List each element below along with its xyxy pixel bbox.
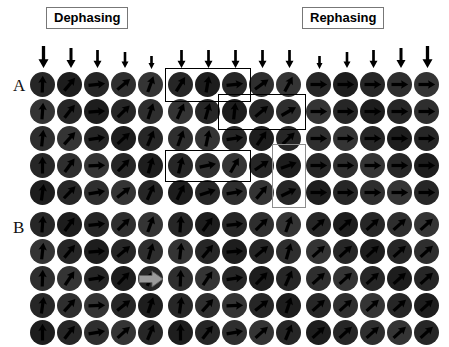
- spin-arrow-icon: [414, 72, 439, 97]
- spin-arrow-icon: [249, 320, 274, 345]
- spin-arrow-icon: [138, 293, 163, 318]
- spin-arrow-icon: [333, 126, 358, 151]
- spin-cell: [387, 99, 412, 124]
- spin-arrow-icon: [249, 212, 274, 237]
- spin-cell: [195, 293, 220, 318]
- stimulus-arrow-a-right-1: [316, 55, 323, 73]
- spin-cell: [30, 180, 55, 205]
- spin-arrow-icon: [111, 212, 136, 237]
- spin-arrow-icon: [111, 153, 136, 178]
- spin-arrow-icon: [306, 99, 331, 124]
- spin-arrow-icon: [333, 212, 358, 237]
- stimulus-arrow-a-right-2: [343, 52, 351, 72]
- spin-arrow-icon: [84, 126, 109, 151]
- spin-cell: [333, 153, 358, 178]
- spin-cell: [138, 212, 163, 237]
- spin-arrow-icon: [195, 99, 220, 124]
- spin-grid-panel-b-right: [306, 212, 441, 347]
- gray-block-arrow: [138, 270, 164, 292]
- spin-cell: [57, 126, 82, 151]
- spin-arrow-icon: [57, 293, 82, 318]
- spin-cell: [414, 99, 439, 124]
- spin-arrow-icon: [414, 320, 439, 345]
- spin-arrow-icon: [249, 153, 274, 178]
- spin-cell: [138, 72, 163, 97]
- spin-cell: [306, 266, 331, 291]
- spin-arrow-icon: [57, 153, 82, 178]
- spin-grid-panel-a-middle: [168, 72, 303, 207]
- spin-cell: [249, 293, 274, 318]
- spin-arrow-icon: [57, 320, 82, 345]
- spin-cell: [111, 72, 136, 97]
- spin-arrow-icon: [168, 239, 193, 264]
- spin-arrow-icon: [138, 153, 163, 178]
- spin-arrow-icon: [249, 293, 274, 318]
- spin-cell: [387, 72, 412, 97]
- spin-arrow-icon: [84, 153, 109, 178]
- spin-arrow-icon: [111, 266, 136, 291]
- spin-cell: [57, 266, 82, 291]
- spin-arrow-icon: [414, 239, 439, 264]
- spin-arrow-icon: [84, 239, 109, 264]
- spin-arrow-icon: [333, 239, 358, 264]
- spin-cell: [387, 180, 412, 205]
- stimulus-arrow-a-middle-4: [258, 50, 267, 72]
- spin-arrow-icon: [30, 266, 55, 291]
- spin-cell: [168, 99, 193, 124]
- spin-arrow-icon: [195, 320, 220, 345]
- spin-arrow-icon: [30, 153, 55, 178]
- spin-arrow-icon: [111, 180, 136, 205]
- spin-arrow-icon: [333, 320, 358, 345]
- spin-cell: [306, 320, 331, 345]
- spin-arrow-icon: [195, 266, 220, 291]
- spin-cell: [168, 293, 193, 318]
- spin-arrow-icon: [333, 293, 358, 318]
- overlay-rect-right-vertical: [272, 144, 306, 208]
- spin-arrow-icon: [57, 99, 82, 124]
- spin-cell: [276, 212, 301, 237]
- header-rephasing: Rephasing: [302, 7, 384, 29]
- spin-cell: [84, 239, 109, 264]
- spin-cell: [111, 99, 136, 124]
- spin-cell: [168, 180, 193, 205]
- spin-arrow-icon: [195, 212, 220, 237]
- spin-cell: [138, 99, 163, 124]
- spin-arrow-icon: [360, 72, 385, 97]
- spin-cell: [168, 126, 193, 151]
- spin-cell: [84, 320, 109, 345]
- spin-cell: [30, 293, 55, 318]
- spin-arrow-icon: [138, 99, 163, 124]
- spin-arrow-icon: [168, 126, 193, 151]
- spin-cell: [414, 72, 439, 97]
- spin-cell: [57, 180, 82, 205]
- spin-cell: [387, 212, 412, 237]
- spin-arrow-icon: [30, 293, 55, 318]
- spin-cell: [306, 126, 331, 151]
- spin-cell: [333, 99, 358, 124]
- spin-arrow-icon: [387, 153, 412, 178]
- spin-cell: [276, 320, 301, 345]
- spin-arrow-icon: [276, 320, 301, 345]
- spin-cell: [276, 266, 301, 291]
- overlay-rect-lower-left: [165, 150, 251, 182]
- spin-arrow-icon: [84, 320, 109, 345]
- spin-cell: [387, 320, 412, 345]
- spin-arrow-icon: [276, 266, 301, 291]
- spin-arrow-icon: [195, 126, 220, 151]
- spin-cell: [360, 266, 385, 291]
- spin-arrow-icon: [30, 239, 55, 264]
- spin-cell: [111, 320, 136, 345]
- overlay-rect-middle-right: [218, 94, 306, 130]
- spin-grid-panel-a-left: [30, 72, 165, 207]
- spin-arrow-icon: [387, 266, 412, 291]
- spin-cell: [249, 212, 274, 237]
- spin-arrow-icon: [360, 293, 385, 318]
- stimulus-arrow-a-left-3: [93, 50, 102, 72]
- spin-grid-panel-a-right: [306, 72, 441, 207]
- spin-arrow-icon: [111, 126, 136, 151]
- spin-cell: [333, 212, 358, 237]
- spin-cell: [360, 153, 385, 178]
- spin-cell: [249, 266, 274, 291]
- spin-arrow-icon: [333, 180, 358, 205]
